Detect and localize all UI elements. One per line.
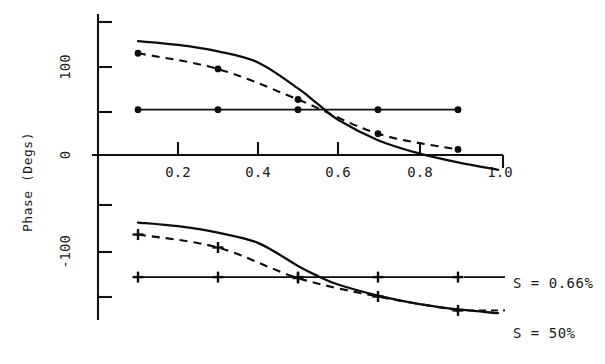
data-point-marker [295,96,302,103]
data-point-marker [295,106,302,113]
chart-series [138,41,498,170]
series-line [138,223,498,314]
data-point-marker [373,291,384,302]
data-point-marker [293,272,304,283]
data-point-marker [453,272,464,283]
data-point-marker [375,106,382,113]
data-point-marker [213,272,224,283]
data-point-marker [375,130,382,137]
data-point-marker [455,146,462,153]
data-point-marker [215,66,222,73]
chart-series [135,50,462,153]
data-point-marker [135,50,142,57]
chart-series [133,272,464,283]
data-point-marker [133,272,144,283]
phase-chart-figure: Phase (Degs) 100 0 -100 0.2 0.4 0.6 0.8 … [0,0,605,364]
series-line [138,41,498,170]
y-tick-label-100: 100 [57,54,73,79]
legend-entry-1: S = 0.66% [513,275,593,291]
x-axis-ticks [178,142,420,155]
data-point-marker [135,106,142,113]
x-tick-label-04: 0.4 [245,164,270,180]
y-axis-ticks [98,22,112,297]
data-point-marker [213,242,224,253]
x-tick-label-02: 0.2 [165,164,190,180]
chart-series [138,223,498,314]
x-tick-label-10: 1.0 [487,164,512,180]
legend-entry-2: S = 50% [513,325,576,341]
x-tick-label-06: 0.6 [325,164,350,180]
x-tick-label-08: 0.8 [407,164,432,180]
chart-svg: Phase (Degs) 100 0 -100 0.2 0.4 0.6 0.8 … [0,0,605,364]
chart-series [135,106,462,113]
data-point-marker [373,272,384,283]
y-tick-label-neg100: -100 [57,235,73,269]
data-point-marker [215,106,222,113]
data-point-marker [455,106,462,113]
data-point-marker [133,229,144,240]
y-axis-title: Phase (Degs) [20,132,35,232]
y-tick-label-0: 0 [57,151,73,159]
